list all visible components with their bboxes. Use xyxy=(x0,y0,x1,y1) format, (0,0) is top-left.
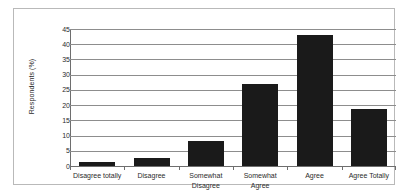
x-axis-tick-mark xyxy=(70,166,71,170)
x-axis-tick-mark xyxy=(179,166,180,170)
x-axis-tick-label-line: Agree xyxy=(233,181,287,191)
gridline xyxy=(70,59,396,60)
y-axis-tick-label: 5 xyxy=(44,147,70,154)
y-axis-tick-label: 35 xyxy=(44,56,70,63)
x-axis-tick-label-line: Somewhat xyxy=(179,171,233,181)
bar xyxy=(79,162,115,166)
gridline xyxy=(70,105,396,106)
x-axis-tick-mark xyxy=(287,166,288,170)
y-axis-tick-label: 25 xyxy=(44,86,70,93)
x-axis-tick-mark xyxy=(342,166,343,170)
x-axis-tick-label-line: Disagree xyxy=(124,171,178,181)
x-axis-tick-mark xyxy=(395,166,396,170)
gridline xyxy=(70,136,396,137)
x-axis-tick-label: SomewhatDisagree xyxy=(179,171,233,190)
x-axis-tick-label-line: Agree Totally xyxy=(342,171,396,181)
y-axis-tick-label: 45 xyxy=(44,26,70,33)
gridline xyxy=(70,29,396,30)
bar-chart-figure: Respondents (%) 051015202530354045 Disag… xyxy=(0,0,408,196)
y-axis-tick-label: 30 xyxy=(44,71,70,78)
y-axis-tick-label: 20 xyxy=(44,102,70,109)
bar xyxy=(351,109,387,166)
x-axis-tick-label: Disagree xyxy=(124,171,178,181)
plot-area xyxy=(70,29,396,166)
x-axis-tick-label-line: Agree xyxy=(287,171,341,181)
x-axis-tick-label-line: Somewhat xyxy=(233,171,287,181)
bar xyxy=(188,141,224,166)
x-axis-tick-label-line: Disagree totally xyxy=(70,171,124,181)
chart-frame: Respondents (%) 051015202530354045 Disag… xyxy=(13,8,395,185)
y-axis-tick-label: 40 xyxy=(44,41,70,48)
x-axis-tick-label: Disagree totally xyxy=(70,171,124,181)
y-axis-tick-label: 0 xyxy=(44,163,70,170)
y-axis-tick-label: 15 xyxy=(44,117,70,124)
bar xyxy=(242,84,278,166)
y-axis-title: Respondents (%) xyxy=(28,37,35,137)
y-axis-tick-labels: 051015202530354045 xyxy=(40,29,70,166)
gridline xyxy=(70,120,396,121)
bar xyxy=(297,35,333,166)
x-axis-tick-labels: Disagree totallyDisagreeSomewhatDisagree… xyxy=(70,171,396,193)
bar xyxy=(134,158,170,166)
gridline xyxy=(70,90,396,91)
x-axis-tick-label: Agree Totally xyxy=(342,171,396,181)
x-axis-tick-label-line: Disagree xyxy=(179,181,233,191)
x-axis-tick-label: Agree xyxy=(287,171,341,181)
gridline xyxy=(70,75,396,76)
x-axis-tick-mark xyxy=(124,166,125,170)
x-axis-tick-mark xyxy=(233,166,234,170)
x-axis-tick-label: SomewhatAgree xyxy=(233,171,287,190)
gridline xyxy=(70,151,396,152)
gridline xyxy=(70,44,396,45)
y-axis-tick-label: 10 xyxy=(44,132,70,139)
